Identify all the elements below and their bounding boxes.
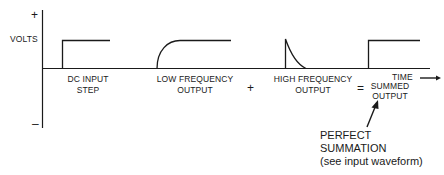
plus-operator: + <box>247 82 254 94</box>
dc-input-step-waveform <box>63 41 111 69</box>
high-frequency-output-waveform <box>286 39 307 69</box>
equals-operator: = <box>357 82 364 94</box>
y-axis-minus-label: – <box>32 118 39 130</box>
y-axis-plus-label: + <box>31 9 38 21</box>
low-frequency-output-waveform <box>157 41 231 69</box>
time-arrowhead-icon <box>436 76 441 81</box>
summed-output-waveform <box>369 41 421 69</box>
y-axis-label: VOLTS <box>10 34 38 45</box>
annotation-arrow-icon <box>367 106 376 127</box>
